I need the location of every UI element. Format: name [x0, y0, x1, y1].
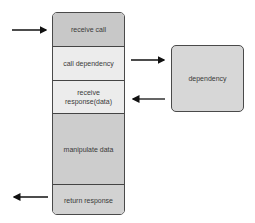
- segment-manipulate-data: manipulate data: [53, 113, 124, 184]
- segment-return-response: return response: [53, 184, 124, 215]
- segment-label: manipulate data: [64, 145, 114, 154]
- segment-label: call dependency: [63, 59, 114, 68]
- dependency-box: dependency: [171, 45, 244, 112]
- dependency-label: dependency: [188, 75, 226, 82]
- segment-receive-call: receive call: [53, 13, 124, 46]
- segment-call-dependency: call dependency: [53, 46, 124, 80]
- segment-label: receive response(data): [63, 88, 114, 106]
- segment-receive-response: receive response(data): [53, 80, 124, 113]
- segment-label: receive call: [71, 25, 106, 34]
- segment-label: return response: [64, 196, 113, 205]
- call-stack: receive call call dependency receive res…: [52, 12, 125, 215]
